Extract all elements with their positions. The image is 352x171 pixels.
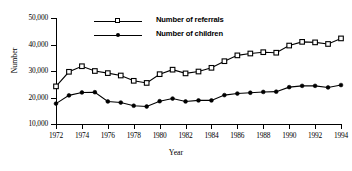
x-tick: [160, 125, 161, 129]
data-point: [248, 91, 252, 95]
data-point: [326, 42, 331, 47]
data-point: [118, 73, 123, 78]
x-tick-label: 1980: [147, 132, 173, 139]
data-point: [106, 71, 111, 76]
data-point: [145, 105, 149, 109]
y-tick-label: 20,000: [0, 94, 48, 101]
data-point: [93, 90, 97, 94]
x-tick: [82, 125, 83, 129]
data-point: [287, 85, 291, 89]
data-point: [326, 86, 330, 90]
data-point: [67, 93, 71, 97]
data-point: [93, 69, 98, 74]
data-point: [339, 36, 344, 41]
series-line-number-of-children: [56, 85, 341, 106]
data-point: [248, 51, 253, 56]
y-tick-label: 30,000: [0, 67, 48, 74]
data-point: [223, 93, 227, 97]
x-tick: [56, 125, 57, 129]
x-tick: [289, 125, 290, 129]
x-tick-label: 1990: [276, 132, 302, 139]
y-tick-label: 40,000: [0, 41, 48, 48]
data-point: [132, 104, 136, 108]
x-tick-label: 1992: [302, 132, 328, 139]
x-tick: [108, 125, 109, 129]
x-tick-label: 1986: [224, 132, 250, 139]
data-point: [300, 84, 304, 88]
data-point: [54, 84, 59, 89]
x-tick-label: 1972: [43, 132, 69, 139]
x-tick: [341, 125, 342, 129]
y-tick-label: 50,000: [0, 14, 48, 21]
x-tick-label: 1978: [121, 132, 147, 139]
data-point: [157, 72, 162, 77]
data-point: [131, 79, 136, 84]
data-point: [197, 99, 201, 103]
data-point: [171, 97, 175, 101]
series-line-number-of-referrals: [56, 38, 341, 86]
x-tick-label: 1976: [95, 132, 121, 139]
x-tick-label: 1988: [250, 132, 276, 139]
x-axis-line: [56, 124, 342, 125]
data-point: [261, 90, 265, 94]
y-axis-title: Number: [10, 38, 19, 84]
x-tick: [186, 125, 187, 129]
data-point: [183, 71, 188, 76]
data-point: [300, 40, 305, 45]
data-point: [261, 50, 266, 55]
x-tick: [237, 125, 238, 129]
x-tick-label: 1982: [173, 132, 199, 139]
data-point: [196, 69, 201, 74]
x-tick: [134, 125, 135, 129]
data-point: [235, 92, 239, 96]
data-point: [67, 70, 72, 75]
data-point: [80, 64, 85, 69]
data-point: [144, 81, 149, 86]
data-point: [235, 53, 240, 58]
data-point: [158, 99, 162, 103]
x-tick: [315, 125, 316, 129]
data-point: [119, 101, 123, 105]
chart-figure: Number of referrals Number of children 1…: [0, 0, 352, 171]
data-point: [80, 91, 84, 95]
data-point: [106, 100, 110, 104]
plot-area: [56, 18, 341, 124]
data-point: [287, 43, 292, 48]
x-tick-label: 1984: [198, 132, 224, 139]
data-point: [184, 100, 188, 104]
x-axis-title: Year: [0, 148, 352, 157]
data-point: [170, 67, 175, 72]
x-tick: [211, 125, 212, 129]
data-point: [339, 83, 343, 87]
data-point: [274, 50, 279, 55]
data-point: [274, 90, 278, 94]
data-point: [54, 102, 58, 106]
data-point: [210, 99, 214, 103]
data-point: [313, 84, 317, 88]
data-point: [222, 59, 227, 64]
y-tick-label: 10,000: [0, 120, 48, 127]
x-tick-label: 1974: [69, 132, 95, 139]
data-point: [209, 66, 214, 71]
x-tick: [263, 125, 264, 129]
data-point: [313, 40, 318, 45]
x-tick-label: 1994: [328, 132, 352, 139]
